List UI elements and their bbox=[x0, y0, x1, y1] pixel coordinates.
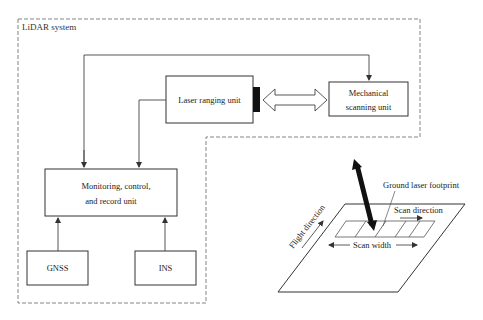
laser-emitter-block bbox=[253, 87, 260, 112]
scan-direction-label: Scan direction bbox=[394, 205, 444, 215]
footprint-label: Ground laser footprint bbox=[383, 180, 460, 190]
lidar-system-label: LiDAR system bbox=[22, 22, 76, 32]
double-arrow bbox=[263, 89, 327, 111]
gnss-label: GNSS bbox=[47, 263, 69, 273]
lidar-diagram: LiDAR system Laser ranging unit Mechanic… bbox=[0, 0, 483, 320]
scan-width-label: Scan width bbox=[353, 240, 392, 250]
monitoring-unit-box bbox=[45, 169, 177, 216]
monitoring-label-line2: and record unit bbox=[85, 196, 137, 206]
laser-beam-head-top bbox=[352, 159, 362, 170]
mechanical-scanning-label-line2: scanning unit bbox=[346, 102, 392, 112]
monitoring-label-line1: Monitoring, control, bbox=[81, 181, 150, 191]
connector-laser-to-monitoring bbox=[139, 100, 166, 167]
ins-label: INS bbox=[159, 263, 173, 273]
laser-ranging-unit-label: Laser ranging unit bbox=[178, 95, 241, 105]
mechanical-scanning-label-line1: Mechanical bbox=[349, 88, 389, 98]
